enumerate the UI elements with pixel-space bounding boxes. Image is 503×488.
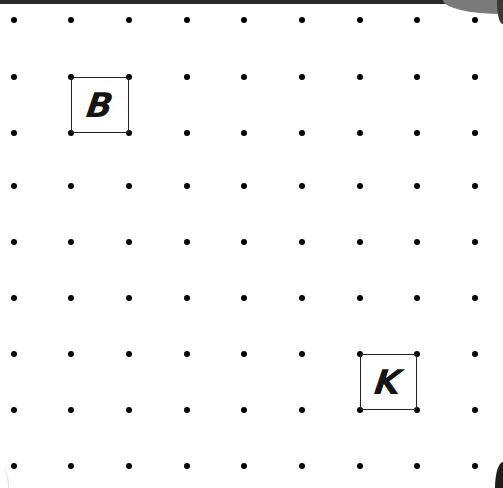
grid-dot [472, 463, 478, 469]
grid-dot [357, 74, 363, 80]
grid-dot [184, 17, 190, 23]
grid-dot [184, 295, 190, 301]
grid-dot [126, 351, 132, 357]
grid-dot [184, 183, 190, 189]
grid-dot [68, 239, 74, 245]
grid-dot [68, 183, 74, 189]
grid-dot [184, 239, 190, 245]
grid-dot [184, 130, 190, 136]
grid-dot [126, 17, 132, 23]
grid-dot [11, 295, 17, 301]
grid-dot [414, 463, 420, 469]
grid-dot [68, 295, 74, 301]
grid-dot [241, 407, 247, 413]
grid-dot [472, 351, 478, 357]
grid-dot [241, 239, 247, 245]
grid-dot [241, 351, 247, 357]
grid-dot [357, 183, 363, 189]
grid-dot [472, 130, 478, 136]
grid-dot [241, 17, 247, 23]
grid-dot [241, 463, 247, 469]
grid-dot [472, 183, 478, 189]
grid-dot [357, 17, 363, 23]
grid-dot [126, 183, 132, 189]
grid-dot [68, 17, 74, 23]
grid-dot [11, 351, 17, 357]
grid-dot [299, 407, 305, 413]
page-corner-shadow [443, 0, 503, 14]
grid-dot [126, 407, 132, 413]
grid-dot [11, 183, 17, 189]
dot-grid-page: B K [0, 0, 503, 488]
page-corner-edge [497, 0, 503, 24]
grid-dot [126, 239, 132, 245]
grid-dot [299, 74, 305, 80]
grid-dot [184, 463, 190, 469]
page-bottom-curl [495, 462, 503, 488]
grid-dot [472, 17, 478, 23]
grid-dot [184, 74, 190, 80]
grid-dot [11, 74, 17, 80]
square-label: B [85, 88, 116, 122]
grid-dot [414, 17, 420, 23]
labeled-square-k: K [360, 354, 417, 410]
grid-dot [357, 463, 363, 469]
grid-dot [414, 239, 420, 245]
grid-dot [299, 130, 305, 136]
grid-dot [299, 463, 305, 469]
grid-dot [68, 407, 74, 413]
grid-dot [184, 407, 190, 413]
grid-dot [414, 130, 420, 136]
grid-dot [11, 463, 17, 469]
grid-dot [11, 130, 17, 136]
grid-dot [472, 407, 478, 413]
grid-dot [11, 407, 17, 413]
grid-dot [299, 351, 305, 357]
square-label: K [373, 365, 404, 399]
grid-dot [414, 74, 420, 80]
grid-dot [68, 351, 74, 357]
grid-dot [241, 74, 247, 80]
grid-dot [11, 17, 17, 23]
grid-dot [299, 295, 305, 301]
grid-dot [357, 239, 363, 245]
grid-dot [472, 74, 478, 80]
grid-dot [472, 295, 478, 301]
grid-dot [414, 183, 420, 189]
grid-dot [241, 295, 247, 301]
grid-dot [126, 295, 132, 301]
grid-dot [68, 463, 74, 469]
grid-dot [126, 463, 132, 469]
labeled-square-b: B [71, 77, 129, 133]
grid-dot [241, 130, 247, 136]
page-top-edge [0, 0, 503, 4]
grid-dot [357, 130, 363, 136]
grid-dot [241, 183, 247, 189]
grid-dot [299, 183, 305, 189]
grid-dot [357, 295, 363, 301]
grid-dot [184, 351, 190, 357]
page-bottom-left-edge [0, 466, 9, 488]
grid-dot [414, 295, 420, 301]
grid-dot [472, 239, 478, 245]
grid-dot [11, 239, 17, 245]
grid-dot [299, 17, 305, 23]
grid-dot [299, 239, 305, 245]
